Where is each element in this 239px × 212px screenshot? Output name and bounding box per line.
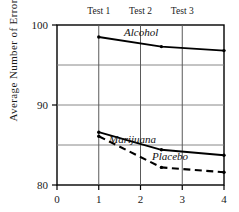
annotation-test-1: Test 1: [87, 6, 110, 16]
series-point-placebo-test1: [97, 135, 100, 138]
series-point-marijuana-test1: [97, 131, 100, 134]
series-label-placebo: Placebo: [151, 150, 189, 162]
series-point-placebo-test3: [222, 171, 225, 174]
annotation-test-2: Test 2: [129, 6, 152, 16]
xtick-label-0: 0: [54, 193, 60, 205]
xtick-label-2: 2: [138, 193, 144, 205]
xtick-label-3: 3: [180, 193, 186, 205]
xtick-label-4: 4: [221, 193, 227, 205]
ytick-label-100: 100: [32, 19, 49, 31]
line-chart-plot: 100 90 80 0 1 2 3 4 Test 1 Test 2 Test 3…: [0, 0, 239, 212]
xtick-label-1: 1: [96, 193, 102, 205]
chart-figure: Average Number of Errors 100 90 80 0 1 2…: [0, 0, 239, 212]
series-label-alcohol: Alcohol: [123, 26, 158, 38]
series-point-placebo-mid: [160, 166, 163, 169]
series-point-alcohol-test1: [97, 35, 100, 38]
ytick-label-80: 80: [37, 179, 49, 191]
series-point-alcohol-test3: [222, 49, 225, 52]
annotation-test-3: Test 3: [171, 6, 194, 16]
series-label-marijuana: Marijuana: [108, 133, 157, 145]
series-point-marijuana-test3: [222, 154, 225, 157]
series-point-alcohol-mid: [160, 45, 163, 48]
ytick-label-90: 90: [37, 99, 49, 111]
